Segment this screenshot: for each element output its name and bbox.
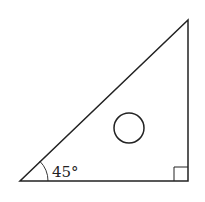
triangle-diagram: 45° [0, 0, 205, 202]
inner-circle [114, 113, 144, 143]
angle-label: 45° [52, 163, 79, 181]
angle-arc [40, 161, 48, 181]
right-angle-marker [174, 167, 188, 181]
right-triangle [20, 20, 188, 181]
